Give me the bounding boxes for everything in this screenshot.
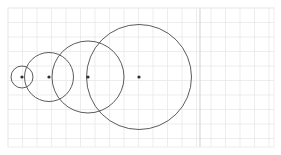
circle-series xyxy=(11,25,192,130)
center-marker-dot xyxy=(86,75,89,78)
center-marker-dot xyxy=(137,75,140,78)
center-marker-dot xyxy=(20,75,23,78)
figure-canvas xyxy=(0,0,281,155)
center-marker-dot xyxy=(47,75,50,78)
circles-scatter-plot xyxy=(0,0,281,155)
